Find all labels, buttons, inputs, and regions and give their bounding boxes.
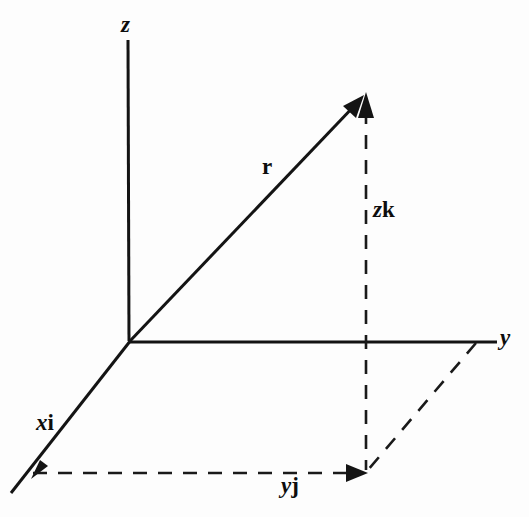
- z-axis-line: [128, 40, 129, 341]
- x-axis-line: [11, 340, 131, 493]
- y-component-unit-vector: j: [291, 473, 299, 498]
- x-component-scalar: x: [36, 410, 48, 435]
- x-component-label: xi: [36, 411, 54, 434]
- y-component-scalar: y: [281, 473, 291, 498]
- x-component-unit-vector: i: [48, 410, 54, 435]
- position-vector-r-line: [130, 103, 357, 341]
- y-axis-label: y: [500, 326, 510, 349]
- z-component-label: zk: [373, 198, 395, 221]
- x-parallel-dashed-line: [368, 343, 476, 470]
- diagram-canvas: [0, 0, 529, 517]
- z-component-unit-vector: k: [382, 197, 395, 222]
- z-axis-label: z: [121, 13, 130, 36]
- vector-diagram-figure: z y r xi yj zk: [0, 0, 529, 517]
- y-component-label: yj: [281, 474, 299, 497]
- position-vector-r-label: r: [262, 155, 272, 178]
- z-component-scalar: z: [373, 197, 382, 222]
